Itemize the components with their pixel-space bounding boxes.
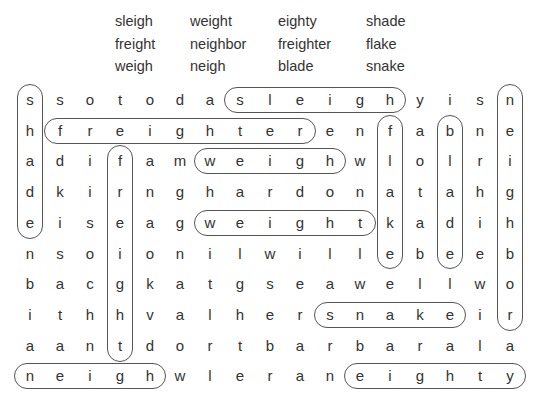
grid-cell[interactable]: g — [285, 208, 315, 238]
grid-cell[interactable]: t — [405, 177, 435, 207]
grid-cell[interactable]: l — [435, 269, 465, 299]
grid-cell[interactable]: i — [75, 177, 105, 207]
grid-cell[interactable]: o — [315, 177, 345, 207]
grid-cell[interactable]: a — [15, 146, 45, 176]
grid-cell[interactable]: l — [345, 239, 375, 269]
grid-cell[interactable]: s — [465, 85, 495, 115]
grid-cell[interactable]: e — [225, 361, 255, 391]
grid-cell[interactable]: a — [375, 300, 405, 330]
grid-cell[interactable]: h — [375, 85, 405, 115]
grid-cell[interactable]: n — [75, 331, 105, 361]
grid-cell[interactable]: t — [465, 361, 495, 391]
grid-cell[interactable]: a — [15, 331, 45, 361]
grid-cell[interactable]: n — [135, 177, 165, 207]
grid-cell[interactable]: o — [135, 239, 165, 269]
grid-cell[interactable]: l — [195, 300, 225, 330]
grid-cell[interactable]: b — [435, 116, 465, 146]
grid-cell[interactable]: s — [225, 85, 255, 115]
grid-cell[interactable]: a — [165, 269, 195, 299]
grid-cell[interactable]: h — [465, 177, 495, 207]
grid-cell[interactable]: y — [405, 85, 435, 115]
grid-cell[interactable]: w — [465, 269, 495, 299]
grid-cell[interactable]: o — [75, 239, 105, 269]
grid-cell[interactable]: i — [285, 239, 315, 269]
grid-cell[interactable]: h — [225, 300, 255, 330]
grid-cell[interactable]: r — [465, 146, 495, 176]
grid-cell[interactable]: o — [75, 85, 105, 115]
grid-cell[interactable]: e — [285, 269, 315, 299]
grid-cell[interactable]: l — [375, 146, 405, 176]
grid-cell[interactable]: e — [435, 300, 465, 330]
grid-cell[interactable]: n — [345, 300, 375, 330]
grid-cell[interactable]: a — [405, 208, 435, 238]
grid-cell[interactable]: n — [465, 116, 495, 146]
grid-cell[interactable]: k — [375, 208, 405, 238]
grid-cell[interactable]: n — [345, 177, 375, 207]
grid-cell[interactable]: i — [375, 361, 405, 391]
grid-cell[interactable]: a — [375, 331, 405, 361]
grid-cell[interactable]: e — [255, 116, 285, 146]
grid-cell[interactable]: e — [225, 146, 255, 176]
grid-cell[interactable]: o — [495, 269, 525, 299]
grid-cell[interactable]: b — [15, 269, 45, 299]
grid-cell[interactable]: r — [255, 361, 285, 391]
grid-cell[interactable]: a — [435, 177, 465, 207]
grid-cell[interactable]: t — [225, 331, 255, 361]
grid-cell[interactable]: a — [45, 331, 75, 361]
grid-cell[interactable]: h — [315, 146, 345, 176]
grid-cell[interactable]: a — [495, 331, 525, 361]
grid-cell[interactable]: r — [105, 177, 135, 207]
grid-cell[interactable]: a — [315, 269, 345, 299]
grid-cell[interactable]: k — [45, 177, 75, 207]
grid-cell[interactable]: h — [495, 208, 525, 238]
grid-cell[interactable]: e — [315, 116, 345, 146]
grid-cell[interactable]: e — [435, 239, 465, 269]
grid-cell[interactable]: b — [255, 331, 285, 361]
grid-cell[interactable]: g — [345, 85, 375, 115]
grid-cell[interactable]: i — [195, 239, 225, 269]
grid-cell[interactable]: e — [45, 361, 75, 391]
letter-grid[interactable]: ssotodasleighyisnhfreighterenfabneadifam… — [0, 0, 536, 410]
grid-cell[interactable]: i — [75, 146, 105, 176]
grid-cell[interactable]: i — [255, 208, 285, 238]
grid-cell[interactable]: i — [465, 208, 495, 238]
grid-cell[interactable]: g — [225, 269, 255, 299]
grid-cell[interactable]: d — [165, 85, 195, 115]
grid-cell[interactable]: i — [495, 146, 525, 176]
grid-cell[interactable]: r — [495, 300, 525, 330]
grid-cell[interactable]: g — [285, 146, 315, 176]
grid-cell[interactable]: l — [405, 269, 435, 299]
grid-cell[interactable]: n — [495, 85, 525, 115]
grid-cell[interactable]: r — [75, 116, 105, 146]
grid-cell[interactable]: f — [45, 116, 75, 146]
grid-cell[interactable]: r — [285, 300, 315, 330]
grid-cell[interactable]: n — [165, 239, 195, 269]
grid-cell[interactable]: l — [225, 239, 255, 269]
grid-cell[interactable]: o — [165, 331, 195, 361]
grid-cell[interactable]: e — [225, 208, 255, 238]
grid-cell[interactable]: d — [135, 331, 165, 361]
grid-cell[interactable]: t — [195, 269, 225, 299]
grid-cell[interactable]: d — [15, 177, 45, 207]
grid-cell[interactable]: h — [135, 361, 165, 391]
grid-cell[interactable]: t — [345, 208, 375, 238]
grid-cell[interactable]: h — [435, 361, 465, 391]
grid-cell[interactable]: v — [135, 300, 165, 330]
grid-cell[interactable]: a — [225, 177, 255, 207]
grid-cell[interactable]: y — [495, 361, 525, 391]
grid-cell[interactable]: h — [75, 300, 105, 330]
grid-cell[interactable]: t — [225, 116, 255, 146]
grid-cell[interactable]: i — [75, 361, 105, 391]
grid-cell[interactable]: e — [495, 116, 525, 146]
grid-cell[interactable]: i — [135, 116, 165, 146]
grid-cell[interactable]: e — [375, 269, 405, 299]
grid-cell[interactable]: g — [165, 177, 195, 207]
grid-cell[interactable]: b — [345, 331, 375, 361]
grid-cell[interactable]: f — [105, 146, 135, 176]
grid-cell[interactable]: n — [15, 239, 45, 269]
grid-cell[interactable]: h — [315, 208, 345, 238]
grid-cell[interactable]: n — [345, 116, 375, 146]
grid-cell[interactable]: i — [435, 85, 465, 115]
grid-cell[interactable]: e — [255, 300, 285, 330]
grid-cell[interactable]: d — [285, 177, 315, 207]
